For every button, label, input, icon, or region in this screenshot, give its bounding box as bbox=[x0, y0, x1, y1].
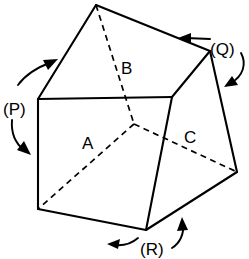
arrow-head-r-left-icon bbox=[107, 239, 120, 249]
arrow-head-p-lower-icon bbox=[17, 141, 31, 155]
edge-left-bottom-to-bottom-front bbox=[38, 209, 146, 230]
edge-top-right-to-mid-top bbox=[172, 51, 210, 97]
rotation-label-p: (P) bbox=[3, 100, 26, 119]
face-labels-group: A B C bbox=[82, 59, 196, 153]
face-label-c: C bbox=[184, 128, 196, 147]
hidden-edges-group bbox=[38, 5, 237, 209]
rotation-label-r: (R) bbox=[140, 240, 164, 259]
edge-apex-to-left-top bbox=[38, 5, 96, 99]
edge-top-right-to-right-bottom bbox=[210, 51, 237, 172]
edge-apex-to-top-right bbox=[96, 5, 210, 51]
arrow-head-q-lower-icon bbox=[224, 76, 238, 87]
rotation-label-q: (Q) bbox=[210, 40, 235, 59]
prism-diagram: A B C (P) (Q) (R) bbox=[0, 0, 249, 259]
face-label-a: A bbox=[82, 134, 94, 153]
arrow-head-r-right-icon bbox=[177, 217, 188, 231]
edge-bottom-front-to-mid-top bbox=[146, 97, 172, 230]
edge-right-bottom-to-bottom-front bbox=[146, 172, 237, 230]
figure-canvas: A B C (P) (Q) (R) bbox=[0, 0, 249, 259]
face-label-b: B bbox=[121, 59, 132, 78]
edge-mid-top-to-left-top bbox=[38, 97, 172, 99]
